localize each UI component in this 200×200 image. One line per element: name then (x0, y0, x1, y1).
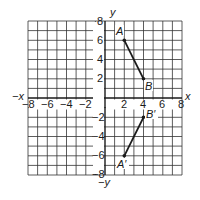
svg-text:8: 8 (178, 98, 184, 110)
svg-text:4: 4 (97, 53, 103, 65)
point-a-label: A (115, 25, 123, 37)
svg-text:−6: −6 (41, 98, 54, 110)
svg-text:2: 2 (97, 72, 103, 84)
coordinate-plane: y −y x −x −8 −6 −4 −2 2 4 6 8 8 6 4 2 −2… (0, 0, 200, 200)
svg-text:−2: −2 (92, 111, 105, 123)
svg-text:8: 8 (97, 15, 103, 27)
y-axis-label: y (109, 6, 117, 18)
point-b-prime-label: B′ (146, 108, 156, 120)
svg-text:2: 2 (121, 98, 127, 110)
point-b-label: B (145, 80, 152, 92)
svg-text:−2: −2 (79, 98, 92, 110)
svg-text:−4: −4 (60, 98, 73, 110)
point-b-prime (142, 116, 146, 120)
svg-text:−8: −8 (22, 98, 35, 110)
point-a-prime-label: A′ (116, 158, 127, 170)
point-a (123, 39, 127, 43)
svg-text:−8: −8 (92, 168, 105, 180)
svg-text:6: 6 (159, 98, 165, 110)
svg-text:6: 6 (97, 34, 103, 46)
x-axis-label: x (184, 90, 191, 102)
svg-text:−4: −4 (92, 130, 105, 142)
svg-text:−6: −6 (92, 149, 105, 161)
